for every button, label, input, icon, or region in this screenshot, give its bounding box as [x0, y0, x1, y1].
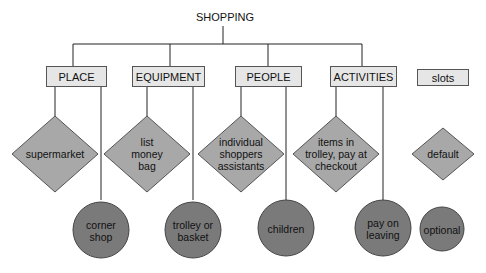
default-equipment-label: list money bag — [112, 136, 182, 172]
frame-people: PEOPLE — [235, 66, 302, 87]
frame-activities: ACTIVITIES — [330, 66, 397, 87]
optional-people-label: children — [258, 221, 314, 237]
legend-slots-label: slots — [432, 72, 455, 84]
frame-equipment-label: EQUIPMENT — [136, 71, 201, 83]
legend-optional-label: optional — [420, 222, 464, 238]
default-activities-label: items in trolley, pay at checkout — [294, 136, 378, 172]
frame-activities-label: ACTIVITIES — [334, 71, 394, 83]
root-title: SHOPPING — [196, 11, 254, 23]
legend-slots-box: slots — [417, 69, 469, 86]
default-people-label: individual shoppers assistants — [201, 136, 281, 172]
legend-default-label: default — [413, 146, 473, 162]
default-place-label: supermarket — [15, 146, 95, 162]
optional-activities-label: pay on leaving — [355, 216, 411, 242]
optional-equipment-label: trolley or basket — [163, 218, 223, 244]
frame-place: PLACE — [46, 66, 107, 87]
frame-place-label: PLACE — [58, 71, 94, 83]
frame-equipment: EQUIPMENT — [132, 66, 205, 87]
optional-place-label: corner shop — [73, 218, 129, 244]
frame-people-label: PEOPLE — [246, 71, 290, 83]
